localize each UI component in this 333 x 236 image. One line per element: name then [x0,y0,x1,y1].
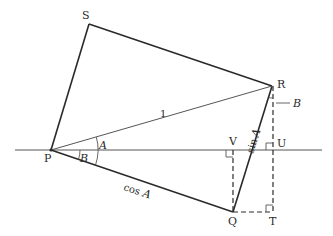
side-PS [51,24,89,150]
right-angle-U [266,143,273,150]
angle-arc-B-at-R [269,98,274,99]
label-P: P [44,152,52,165]
label-sin-A: sin A [243,127,263,155]
label-angle-B: B [79,152,88,165]
label-angle-B-at-R: B [292,97,301,110]
label-V: V [228,135,238,148]
label-T: T [269,215,277,228]
label-S: S [82,9,90,22]
label-cos-var: A [140,186,153,201]
label-U: U [277,137,286,150]
side-SR [89,24,272,86]
right-angle-V [226,150,233,157]
label-Q: Q [228,215,237,228]
label-cos: cos [122,181,141,197]
label-R: R [277,78,286,91]
right-angle-T [266,205,273,212]
compound-angle-diagram: P S R Q T U V 1 A B B cos A sin A [0,0,333,236]
label-angle-A: A [98,139,107,152]
label-hypotenuse-1: 1 [160,108,166,119]
label-sin: sin [244,137,259,155]
angle-arc-A [96,137,99,165]
